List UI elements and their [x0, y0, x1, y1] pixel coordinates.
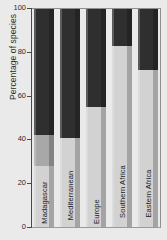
y-tick-label: 100 — [13, 3, 26, 13]
y-tick-label: 60 — [18, 91, 26, 101]
y-tick-label: 20 — [18, 178, 26, 188]
y-axis-line — [31, 8, 32, 228]
bar-group[interactable]: Southern Africa — [112, 9, 132, 227]
bar-group[interactable]: Mediterranean — [60, 9, 80, 227]
axis-bottom-line — [31, 227, 161, 228]
bar-shadow — [153, 9, 158, 227]
y-tick-mark — [27, 8, 31, 9]
bar-shadow — [75, 9, 80, 227]
bar-highlight — [112, 9, 114, 227]
stacked-bar[interactable] — [86, 9, 106, 227]
stacked-bar[interactable] — [112, 9, 132, 227]
axis-right-line — [160, 8, 161, 228]
y-axis-title: Percentage of species — [8, 0, 18, 117]
y-tick-mark — [27, 183, 31, 184]
plot-area: 020406080100 MadagascarMediterraneanEuro… — [31, 8, 161, 228]
bar-shadow — [49, 9, 54, 227]
stacked-bar-chart: Percentage of species 020406080100 Madag… — [0, 0, 167, 240]
stacked-bar[interactable] — [60, 9, 80, 227]
bar-group[interactable]: Eastern Africa — [138, 9, 158, 227]
bar-highlight — [138, 9, 140, 227]
bar-shadow — [127, 9, 132, 227]
y-tick-mark — [27, 139, 31, 140]
bar-highlight — [60, 9, 62, 227]
y-tick-label: 0 — [22, 222, 26, 232]
y-tick-mark — [27, 227, 31, 228]
y-tick-label: 40 — [18, 134, 26, 144]
bar-group[interactable]: Europe — [86, 9, 106, 227]
bar-highlight — [34, 9, 36, 227]
y-tick-mark — [27, 96, 31, 97]
stacked-bar[interactable] — [34, 9, 54, 227]
y-tick-mark — [27, 52, 31, 53]
y-tick-label: 80 — [18, 47, 26, 57]
bar-shadow — [101, 9, 106, 227]
stacked-bar[interactable] — [138, 9, 158, 227]
bar-group[interactable]: Madagascar — [34, 9, 54, 227]
bar-highlight — [86, 9, 88, 227]
